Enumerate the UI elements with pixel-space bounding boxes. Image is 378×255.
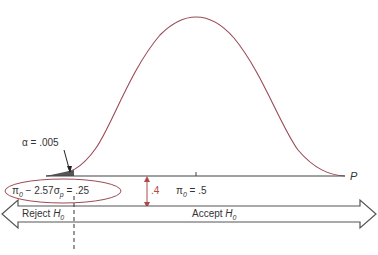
alpha-label: α = .005 bbox=[22, 138, 59, 148]
mean-label: π0 = .5 bbox=[176, 186, 207, 198]
accept-h0-label: Accept H0 bbox=[192, 209, 237, 221]
distance-label: .4 bbox=[151, 186, 159, 196]
normal-curve bbox=[46, 17, 345, 176]
reject-h0-label: Reject H0 bbox=[22, 209, 64, 221]
critical-value-label: π0 − 2.57σp = .25 bbox=[12, 186, 89, 198]
axis-label-p: P bbox=[350, 171, 357, 182]
distance-arrow-up-icon bbox=[144, 176, 150, 182]
